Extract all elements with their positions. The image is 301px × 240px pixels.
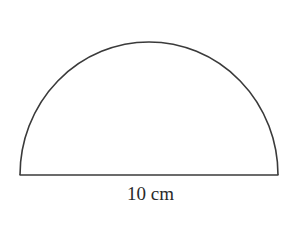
semicircle-arc (20, 42, 278, 175)
diameter-label: 10 cm (0, 183, 301, 205)
